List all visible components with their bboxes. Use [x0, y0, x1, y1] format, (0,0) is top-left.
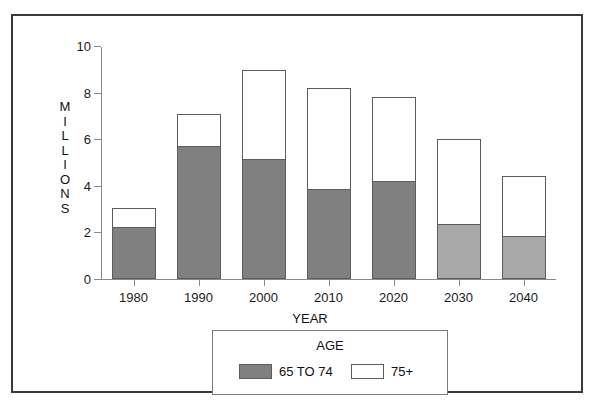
plot-area: 0246810 1980199020002010202020302040	[101, 47, 556, 297]
bar-segment-65-to-74[interactable]	[308, 189, 350, 278]
x-axis-tick-label: 2040	[494, 290, 554, 305]
y-axis-tick-label: 6	[65, 139, 91, 140]
x-axis-tick	[134, 280, 135, 286]
y-axis-title-letter: I	[55, 115, 75, 130]
y-axis-tick-label: 10	[65, 46, 91, 47]
bar-segment-65-to-74[interactable]	[373, 181, 415, 278]
bar-stack[interactable]	[502, 176, 546, 279]
y-axis-title: MILLIONS	[55, 100, 75, 216]
y-axis-title-letter: N	[55, 187, 75, 202]
x-axis-tick	[264, 280, 265, 286]
x-axis-tick-label: 2030	[429, 290, 489, 305]
y-axis-tick-label: 2	[65, 232, 91, 233]
x-axis-tick	[199, 280, 200, 286]
y-axis-tick-label: 4	[65, 186, 91, 187]
x-axis-title-text: YEAR	[292, 311, 327, 326]
bar-stack[interactable]	[112, 208, 156, 279]
y-axis-tick	[94, 46, 101, 47]
y-axis-title-letter: L	[55, 129, 75, 144]
bar-segment-65-to-74[interactable]	[178, 146, 220, 278]
bar-stack[interactable]	[372, 97, 416, 279]
y-axis-line	[101, 47, 102, 280]
bar-stack[interactable]	[437, 139, 481, 279]
y-axis-tick	[94, 279, 101, 280]
x-axis-tick	[394, 280, 395, 286]
x-axis-tick	[459, 280, 460, 286]
x-axis-tick	[524, 280, 525, 286]
y-axis-title-letter: M	[55, 100, 75, 115]
legend-swatch-75-plus	[351, 364, 384, 379]
legend-entry-65-to-74[interactable]: 65 TO 74	[239, 364, 333, 379]
bar-segment-65-to-74[interactable]	[243, 159, 285, 278]
x-axis-title: YEAR	[13, 311, 581, 326]
bar-stack[interactable]	[177, 114, 221, 279]
y-axis-title-letter: S	[55, 202, 75, 217]
bar-segment-65-to-74[interactable]	[503, 236, 545, 278]
chart-frame: MILLIONS 0246810 19801990200020102020203…	[11, 14, 583, 393]
legend-title: AGE	[213, 338, 447, 353]
y-axis-title-letter: L	[55, 144, 75, 159]
x-axis-tick-label: 2010	[299, 290, 359, 305]
bar-stack[interactable]	[307, 88, 351, 279]
y-axis-tick	[94, 186, 101, 187]
y-axis-tick	[94, 139, 101, 140]
x-axis-tick-label: 2000	[234, 290, 294, 305]
legend-entry-75-plus[interactable]: 75+	[351, 364, 413, 379]
y-axis-tick	[94, 93, 101, 94]
y-axis-tick-label: 0	[65, 279, 91, 280]
bar-stack[interactable]	[242, 70, 286, 279]
x-axis-tick-label: 2020	[364, 290, 424, 305]
y-axis-tick-label: 8	[65, 93, 91, 94]
bar-segment-65-to-74[interactable]	[438, 224, 480, 278]
bar-segment-65-to-74[interactable]	[113, 227, 155, 278]
legend: AGE 65 TO 74 75+	[212, 330, 448, 395]
legend-label-75-plus: 75+	[391, 364, 413, 379]
legend-label-65-to-74: 65 TO 74	[279, 364, 333, 379]
x-axis-tick-label: 1980	[104, 290, 164, 305]
x-axis-tick	[329, 280, 330, 286]
y-axis-title-letter: I	[55, 158, 75, 173]
y-axis-tick	[94, 232, 101, 233]
x-axis-tick-label: 1990	[169, 290, 229, 305]
legend-swatch-65-to-74	[239, 364, 272, 379]
